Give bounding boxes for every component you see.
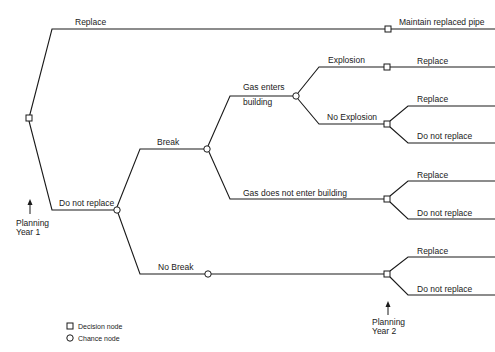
label-gas-enters-2: building [243, 97, 273, 107]
decision-node-no-explosion [384, 121, 390, 127]
arrow-head-icon [28, 199, 33, 205]
legend: Decision node Chance node [67, 323, 123, 342]
legend-decision-label: Decision node [78, 323, 122, 330]
edge-no-explosion-replace [390, 106, 495, 121]
label-no-explosion-dnr: Do not replace [417, 131, 473, 141]
label-no-explosion-replace: Replace [417, 94, 448, 104]
label-break: Break [157, 137, 180, 147]
arrow-head-icon [386, 301, 391, 307]
label-no-break: No Break [158, 262, 194, 272]
label-gas-not-enter-dnr: Do not replace [417, 208, 473, 218]
edge-break [117, 149, 204, 207]
edge-explosion [298, 67, 384, 93]
decision-node-root [26, 115, 32, 121]
chance-node-break [204, 146, 210, 152]
label-explosion: Explosion [328, 55, 365, 65]
chance-node-no-break [205, 271, 211, 277]
label-replace: Replace [75, 17, 106, 27]
chance-node-legend-icon [67, 335, 73, 341]
chance-node-do-not-replace [114, 207, 120, 213]
label-planning-year-2-line2: Year 2 [372, 326, 397, 336]
decision-node-gas-not-enter [384, 196, 390, 202]
edge-no-break-replace [390, 257, 495, 271]
label-explosion-replace: Replace [417, 56, 448, 66]
planning-year-2-marker: Planning Year 2 [372, 301, 405, 336]
edge-do-not-replace [29, 121, 114, 210]
label-gas-not-enter: Gas does not enter building [243, 188, 347, 198]
label-gas-enters-1: Gas enters [243, 82, 285, 92]
decision-node-maintain [385, 26, 391, 32]
label-gas-not-enter-replace: Replace [417, 170, 448, 180]
label-no-explosion: No Explosion [327, 112, 377, 122]
chance-node-gas-enters [293, 93, 299, 99]
label-no-break-dnr: Do not replace [417, 284, 473, 294]
label-maintain-replaced-pipe: Maintain replaced pipe [399, 17, 485, 27]
legend-chance-label: Chance node [78, 335, 120, 342]
planning-year-1-marker: Planning Year 1 [16, 199, 49, 237]
decision-tree-diagram: Replace Maintain replaced pipe Do not re… [0, 0, 495, 352]
label-do-not-replace: Do not replace [59, 198, 115, 208]
decision-node-explosion [384, 64, 390, 70]
edge-gas-not-enter-replace [390, 181, 495, 196]
decision-node-no-break [384, 271, 390, 277]
label-planning-year-1-line2: Year 1 [16, 227, 41, 237]
decision-node-legend-icon [67, 323, 73, 329]
label-no-break-replace: Replace [417, 246, 448, 256]
edge-replace [29, 29, 385, 118]
